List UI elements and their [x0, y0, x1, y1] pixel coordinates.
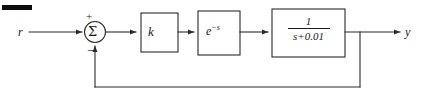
summing-junction-plus-sign: + [86, 11, 92, 22]
plant-denominator: s+0.01 [273, 30, 344, 42]
summing-junction-minus-sign: − [87, 44, 94, 57]
gain-block-label: k [148, 25, 154, 38]
output-signal-label-y: y [405, 26, 410, 38]
summing-junction-sigma-symbol: Σ [88, 25, 97, 38]
block-diagram-canvas: r y + − Σ k e−s 1 s+0.01 [0, 0, 423, 98]
delay-block-exponent: −s [211, 23, 220, 32]
diagram-vector-layer [0, 0, 423, 98]
fraction-bar-icon [288, 28, 330, 29]
delay-block-label: e−s [206, 24, 220, 37]
block-gain-k [141, 13, 178, 52]
plant-numerator: 1 [273, 15, 344, 27]
input-signal-label-r: r [18, 26, 23, 38]
plant-block-fraction: 1 s+0.01 [273, 15, 344, 42]
